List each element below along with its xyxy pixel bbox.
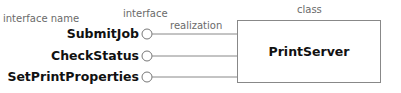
lollipop-setprintproperties (142, 72, 237, 82)
lollipop-submitjob (142, 29, 237, 39)
lollipop-checkstatus (142, 51, 237, 61)
interface-circle-icon (142, 51, 152, 61)
class-box-printserver: PrintServer (237, 20, 381, 83)
interface-circle-icon (142, 29, 152, 39)
class-name: PrintServer (269, 44, 350, 59)
interface-circle-icon (142, 72, 152, 82)
